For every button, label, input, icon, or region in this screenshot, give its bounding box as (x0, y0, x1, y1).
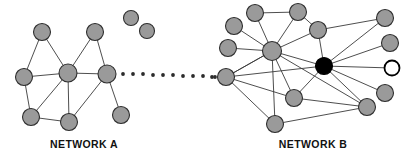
network-edge (324, 66, 392, 68)
network-node[interactable] (218, 69, 235, 86)
network-node[interactable] (59, 64, 77, 82)
network-node-highlighted[interactable] (316, 58, 333, 75)
bridge-dot (171, 73, 175, 77)
network-node[interactable] (263, 42, 282, 61)
edges-layer (24, 12, 392, 124)
network-node[interactable] (286, 90, 303, 107)
network-edge (324, 43, 390, 66)
network-node[interactable] (377, 10, 394, 27)
network-node[interactable] (290, 4, 307, 21)
network-node[interactable] (61, 114, 78, 131)
bridge-dot (201, 74, 205, 78)
isolated-network-node[interactable] (140, 24, 155, 39)
network-node[interactable] (220, 40, 237, 57)
bridge-dot (141, 72, 145, 76)
network-node[interactable] (98, 65, 116, 83)
nodes-layer (16, 4, 400, 133)
network-node[interactable] (113, 107, 130, 124)
network-node-hollow[interactable] (385, 61, 400, 76)
network-diagram-page: NETWORK A NETWORK B (0, 0, 417, 162)
network-edge (324, 66, 385, 93)
network-b-label: NETWORK B (279, 138, 347, 150)
network-edge (226, 77, 294, 98)
network-node[interactable] (34, 24, 51, 41)
network-edge (226, 77, 275, 124)
network-node[interactable] (382, 35, 399, 52)
network-a-label: NETWORK A (50, 138, 118, 150)
bridge-dot (181, 74, 185, 78)
bridge-dot (121, 72, 125, 76)
network-node[interactable] (87, 24, 104, 41)
network-node[interactable] (247, 5, 264, 22)
network-node[interactable] (359, 99, 376, 116)
network-node[interactable] (23, 109, 40, 126)
network-node[interactable] (310, 22, 327, 39)
network-node[interactable] (377, 85, 394, 102)
isolated-network-node[interactable] (124, 11, 139, 26)
bridge-dot (213, 75, 217, 79)
bridge-dot (131, 72, 135, 76)
network-edge (226, 66, 324, 77)
network-node[interactable] (16, 69, 33, 86)
network-node[interactable] (226, 18, 243, 35)
network-edge (272, 51, 275, 124)
network-diagram-canvas: NETWORK A NETWORK B (0, 0, 417, 162)
bridge-dot (191, 74, 195, 78)
network-edge (294, 98, 367, 107)
network-edge (324, 18, 385, 66)
bridge-dot (161, 73, 165, 77)
network-edge (318, 18, 385, 30)
bridge-connector-dotted (121, 72, 217, 79)
bridge-dot (151, 73, 155, 77)
network-node[interactable] (267, 116, 284, 133)
network-edge (275, 107, 367, 124)
